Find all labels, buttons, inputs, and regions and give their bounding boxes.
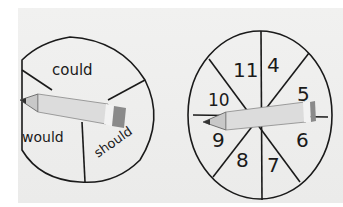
number-6: 6: [296, 128, 309, 152]
label-should: should: [91, 123, 135, 160]
photo-scene: could would should 11 4 5 6 7 8 9 10: [0, 0, 343, 207]
number-8: 8: [236, 148, 249, 172]
number-11: 11: [233, 58, 258, 82]
label-would: would: [22, 129, 64, 145]
spinners-drawing: could would should 11 4 5 6 7 8 9 10: [0, 0, 343, 207]
number-7: 7: [267, 153, 280, 177]
label-could: could: [52, 61, 93, 79]
number-10: 10: [208, 90, 230, 110]
number-4: 4: [267, 53, 280, 77]
number-9: 9: [212, 128, 225, 152]
